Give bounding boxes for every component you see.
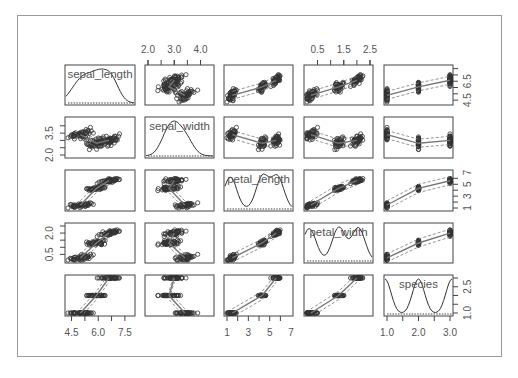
panel-petal_length-vs-sepal_length xyxy=(65,170,135,211)
panel-sepal_length-vs-sepal_width xyxy=(145,65,214,105)
svg-text:1.0: 1.0 xyxy=(380,327,394,338)
svg-text:4.5: 4.5 xyxy=(65,327,79,338)
svg-text:3.0: 3.0 xyxy=(443,327,457,338)
svg-text:0.5: 0.5 xyxy=(311,44,325,55)
panel-sepal_width-vs-species xyxy=(384,117,453,158)
panel-species-vs-petal_length xyxy=(224,274,293,317)
svg-text:1.5: 1.5 xyxy=(337,44,351,55)
panel-sepal_length-vs-petal_length xyxy=(224,65,293,105)
panel-petal_length-vs-petal_width xyxy=(304,170,373,211)
panel-sepal_width-vs-petal_length xyxy=(224,117,293,158)
variable-label: sepal_length xyxy=(67,68,132,80)
panel-sepal_length-vs-species xyxy=(384,65,453,105)
panel-species-vs-sepal_length xyxy=(65,274,135,317)
svg-text:7: 7 xyxy=(288,327,294,338)
variable-label: petal_width xyxy=(309,226,367,238)
panel-petal_width-vs-sepal_length xyxy=(65,223,135,263)
svg-text:2.5: 2.5 xyxy=(363,44,377,55)
svg-text:7: 7 xyxy=(462,169,473,175)
svg-text:2.0: 2.0 xyxy=(412,327,426,338)
svg-text:6.5: 6.5 xyxy=(462,74,473,88)
right-axis-petal_length: 1357 xyxy=(453,169,473,211)
svg-text:3.5: 3.5 xyxy=(44,126,55,140)
svg-text:1: 1 xyxy=(224,327,230,338)
top-axis-sepal_width: 2.03.04.0 xyxy=(141,44,208,65)
diagonal-panel-petal_width: petal_width xyxy=(304,223,373,263)
scatterplot-matrix: sepal_lengthsepal_widthpetal_lengthpetal… xyxy=(0,0,518,378)
svg-text:1: 1 xyxy=(462,205,473,211)
svg-text:2.0: 2.0 xyxy=(141,44,155,55)
bottom-axis-species: 1.02.03.0 xyxy=(380,316,457,338)
bottom-axis-sepal_length: 4.56.07.5 xyxy=(65,316,133,338)
svg-text:6.0: 6.0 xyxy=(91,327,105,338)
svg-text:2.0: 2.0 xyxy=(44,148,55,162)
variable-label: petal_length xyxy=(227,173,290,185)
bottom-axis-petal_length: 1357 xyxy=(224,316,294,338)
panel-petal_length-vs-sepal_width xyxy=(145,170,214,211)
panel-species-vs-sepal_width xyxy=(145,274,214,317)
svg-text:3: 3 xyxy=(462,193,473,199)
diagonal-panel-sepal_length: sepal_length xyxy=(65,65,135,105)
svg-text:4.0: 4.0 xyxy=(194,44,208,55)
svg-text:3: 3 xyxy=(246,327,252,338)
svg-text:7.5: 7.5 xyxy=(118,327,132,338)
svg-text:0.5: 0.5 xyxy=(44,247,55,261)
panel-petal_width-vs-species xyxy=(384,223,453,263)
panel-sepal_width-vs-petal_width xyxy=(304,117,373,158)
top-axis-petal_width: 0.51.52.5 xyxy=(311,44,378,65)
panel-sepal_width-vs-sepal_length xyxy=(65,117,135,158)
svg-text:2.0: 2.0 xyxy=(44,226,55,240)
svg-text:5: 5 xyxy=(462,181,473,187)
diagonal-panel-species: species xyxy=(384,275,453,316)
panel-petal_width-vs-petal_length xyxy=(224,223,293,263)
svg-text:1.0: 1.0 xyxy=(462,306,473,320)
svg-text:3.0: 3.0 xyxy=(167,44,181,55)
left-axis-sepal_width: 2.03.5 xyxy=(44,126,65,162)
svg-text:2.5: 2.5 xyxy=(462,279,473,293)
panel-petal_width-vs-sepal_width xyxy=(145,223,214,263)
svg-text:4.5: 4.5 xyxy=(462,93,473,107)
variable-label: species xyxy=(399,278,438,290)
variable-label: sepal_width xyxy=(149,120,210,132)
right-axis-sepal_length: 4.56.5 xyxy=(453,69,473,107)
panel-sepal_length-vs-petal_width xyxy=(304,65,373,105)
left-axis-petal_width: 0.52.0 xyxy=(44,226,65,262)
panel-species-vs-petal_width xyxy=(304,274,373,317)
svg-text:5: 5 xyxy=(267,327,273,338)
diagonal-panel-sepal_width: sepal_width xyxy=(145,117,214,158)
right-axis-species: 1.02.5 xyxy=(453,278,473,320)
panel-petal_length-vs-species xyxy=(384,170,453,211)
diagonal-panel-petal_length: petal_length xyxy=(224,170,293,211)
